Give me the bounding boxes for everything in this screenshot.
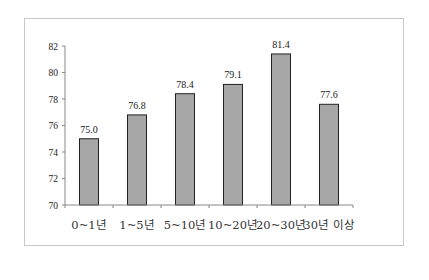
bar xyxy=(320,104,339,205)
x-category-label: 20~30년 xyxy=(256,218,306,232)
x-category-label: 30년 이상 xyxy=(303,218,354,232)
bar xyxy=(272,54,291,205)
bar xyxy=(128,115,147,205)
bar xyxy=(224,84,243,205)
bar-value-label: 77.6 xyxy=(320,89,338,100)
bar-chart: 70727476788082 75.076.878.479.181.477.6 … xyxy=(0,0,429,280)
y-tick-label: 82 xyxy=(49,42,59,52)
bar-value-label: 78.4 xyxy=(176,79,194,90)
y-tick-label: 80 xyxy=(49,68,59,78)
bar xyxy=(80,139,99,205)
x-category-label: 0~1년 xyxy=(71,218,106,232)
bar-value-label: 79.1 xyxy=(224,69,242,80)
y-tick-label: 70 xyxy=(49,201,59,211)
bar xyxy=(176,94,195,205)
bar-value-label: 76.8 xyxy=(128,100,146,111)
x-category-label: 5~10년 xyxy=(164,218,207,232)
y-tick-label: 76 xyxy=(49,121,59,131)
y-tick-label: 74 xyxy=(49,148,59,158)
bar-value-label: 75.0 xyxy=(80,124,98,135)
x-axis: 0~1년1~5년5~10년10~20년20~30년30년 이상 xyxy=(65,205,355,232)
y-tick-label: 78 xyxy=(49,95,59,105)
y-axis: 70727476788082 xyxy=(49,42,66,211)
bar-value-label: 81.4 xyxy=(272,39,290,50)
bars: 75.076.878.479.181.477.6 xyxy=(80,39,339,205)
x-category-label: 10~20년 xyxy=(208,218,258,232)
y-tick-label: 72 xyxy=(49,174,59,184)
x-category-label: 1~5년 xyxy=(119,218,154,232)
